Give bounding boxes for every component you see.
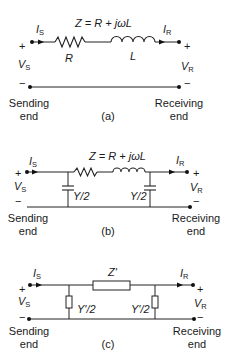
sending-current-label: IS	[29, 155, 37, 169]
current-arrow-icon	[36, 283, 42, 288]
receiving-ground-dot	[188, 205, 192, 209]
shunt-admittance-left-label: Y'/2	[77, 303, 96, 315]
inductor-icon	[113, 168, 145, 172]
sending-plus-sign: +	[19, 40, 25, 52]
sending-current-label: IS	[33, 267, 41, 281]
receiving-end-label-line1: Receiving	[173, 325, 221, 337]
sending-voltage-label: VS	[18, 58, 30, 72]
receiving-plus-sign: +	[184, 40, 190, 52]
transmission-line-models-figure: Z = R + jωL IS IR R L + VS − + VR − Send…	[0, 0, 234, 361]
shunt-admittance-box-icon	[66, 296, 72, 308]
receiving-plus-sign: +	[193, 167, 199, 179]
receiving-end-label-line2: end	[188, 338, 206, 350]
receiving-end-label-line1: Receiving	[172, 212, 220, 224]
receiving-current-label: IR	[180, 267, 189, 281]
receiving-terminal-dot	[185, 170, 189, 174]
sending-plus-sign: +	[19, 283, 25, 295]
series-impedance-label: Z = R + jωL	[88, 150, 146, 162]
sending-end-label-line2: end	[20, 338, 38, 350]
sending-voltage-label: VS	[14, 180, 26, 194]
sending-terminal-dot	[30, 40, 34, 44]
inductor-label: L	[130, 50, 136, 62]
receiving-terminal-dot	[177, 40, 181, 44]
receiving-end-label-line2: end	[187, 225, 205, 237]
panel-b-nominal-pi-circuit: Z = R + jωL IS IR Y/2 Y/2 + VS − + VR − …	[8, 150, 220, 237]
receiving-minus-sign: −	[184, 77, 190, 89]
receiving-minus-sign: −	[197, 311, 203, 323]
series-impedance-label: Z'	[107, 266, 118, 278]
panel-a-short-line-circuit: Z = R + jωL IS IR R L + VS − + VR − Send…	[9, 17, 203, 122]
series-impedance-box-icon	[93, 281, 130, 290]
sending-minus-sign: −	[15, 195, 21, 207]
panel-caption: (b)	[101, 225, 114, 237]
receiving-current-label: IR	[176, 154, 185, 168]
resistor-icon	[74, 168, 97, 176]
sending-end-label-line2: end	[19, 225, 37, 237]
current-arrow-icon	[169, 170, 175, 175]
receiving-minus-sign: −	[193, 195, 199, 207]
sending-terminal-dot	[28, 283, 32, 287]
sending-minus-sign: −	[19, 311, 25, 323]
current-arrow-icon	[159, 40, 165, 45]
shunt-admittance-left-label: Y/2	[73, 190, 90, 202]
inductor-icon	[111, 37, 155, 43]
sending-end-label-line1: Sending	[8, 212, 48, 224]
current-arrow-icon	[32, 170, 38, 175]
receiving-plus-sign: +	[197, 283, 203, 295]
sending-end-label-line1: Sending	[9, 325, 49, 337]
receiving-voltage-label: VR	[181, 60, 194, 74]
resistor-label: R	[65, 52, 73, 64]
receiving-end-label-line2: end	[170, 110, 188, 122]
sending-end-label-line1: Sending	[9, 97, 49, 109]
receiving-voltage-label: VR	[194, 297, 207, 311]
sending-minus-sign: −	[19, 77, 25, 89]
receiving-voltage-label: VR	[190, 181, 203, 195]
sending-ground-dot	[27, 317, 31, 321]
sending-voltage-label: VS	[18, 295, 30, 309]
shunt-admittance-right-label: Y'/2	[131, 303, 150, 315]
sending-plus-sign: +	[15, 167, 21, 179]
receiving-ground-dot	[177, 85, 181, 89]
receiving-terminal-dot	[191, 283, 195, 287]
sending-ground-dot	[28, 85, 32, 89]
panel-caption: (a)	[101, 110, 114, 122]
receiving-end-label-line1: Receiving	[155, 97, 203, 109]
panel-caption: (c)	[102, 338, 115, 350]
current-arrow-icon	[38, 40, 44, 45]
sending-terminal-dot	[25, 170, 29, 174]
current-arrow-icon	[177, 283, 183, 288]
shunt-admittance-right-label: Y/2	[130, 190, 147, 202]
receiving-ground-dot	[192, 317, 196, 321]
shunt-admittance-box-icon	[152, 296, 158, 308]
sending-current-label: IS	[36, 23, 44, 37]
resistor-icon	[55, 37, 85, 47]
panel-c-equivalent-pi-circuit: Z' IS IR Y'/2 Y'/2 + VS − + VR − Sending…	[9, 266, 221, 350]
series-impedance-label: Z = R + jωL	[74, 17, 132, 29]
receiving-current-label: IR	[163, 23, 172, 37]
sending-end-label-line2: end	[20, 110, 38, 122]
